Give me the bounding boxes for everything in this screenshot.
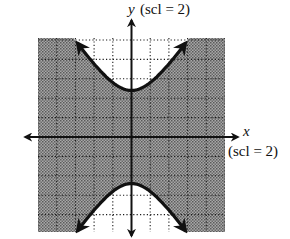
graph: y (scl = 2) x (scl = 2) [0,0,290,239]
x-axis-label: x [242,123,250,139]
x-scale-label: (scl = 2) [228,143,278,160]
y-scale-label: (scl = 2) [140,1,190,18]
y-axis-label: y [126,1,135,17]
